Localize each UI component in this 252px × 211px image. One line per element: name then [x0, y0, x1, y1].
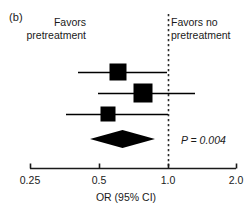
study-row: [66, 107, 168, 122]
study-point-estimate-marker: [110, 64, 127, 81]
x-axis-tick-label: 1.0: [161, 174, 176, 186]
study-row: [98, 84, 195, 103]
x-axis-tick-label: 2.0: [229, 174, 244, 186]
study-point-estimate-marker: [101, 107, 116, 122]
x-axis-title: OR (95% CI): [0, 191, 252, 203]
p-value-label: P = 0.004: [181, 134, 226, 146]
x-axis-group: [30, 164, 237, 169]
x-axis-tick-label: 0.25: [20, 174, 40, 186]
x-axis-tick-label: 0.5: [92, 174, 107, 186]
study-row: [78, 64, 167, 81]
study-rows-group: [66, 64, 195, 122]
forest-plot-figure: (b) Favors pretreatment Favors no pretre…: [0, 0, 252, 211]
summary-diamond-group: [90, 130, 155, 148]
summary-diamond: [90, 130, 155, 148]
study-point-estimate-marker: [134, 84, 153, 103]
